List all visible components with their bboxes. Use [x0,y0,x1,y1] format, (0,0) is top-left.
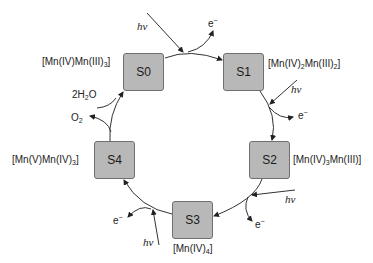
oxygen-arrow [90,116,111,132]
arrow-s0-s1 [165,53,222,60]
electron-label-s3: e− [113,215,123,226]
state-s2-label: S2 [262,153,277,167]
photon-label-s2: hν [285,193,295,205]
water-label: 2H2O [72,89,96,100]
state-s3-label: S3 [185,213,200,227]
electron-label-s0: e− [208,18,218,29]
electron-label-s2: e− [255,219,265,230]
photon-arrow-s0 [147,13,183,52]
arrow-s2-s3 [214,179,262,216]
state-s0-label: S0 [136,65,151,79]
oxidation-label-s2: [Mn(IV)3Mn(III)] [293,154,361,165]
arrow-s4-s0 [110,92,123,141]
oxidation-label-s4: [Mn(V)Mn(IV)3] [12,154,79,165]
electron-label-s1: e− [298,110,308,121]
oxidation-label-s3: [Mn(IV)4] [173,243,212,254]
photon-label-s3: hν [143,236,153,248]
state-s0: S0 [123,53,164,91]
electron-arrow-s2 [246,197,252,221]
state-s2: S2 [249,141,290,179]
oxidation-label-s1: [Mn(IV)2Mn(III)2] [268,58,340,69]
arrow-s3-s4 [124,180,172,214]
water-arrow [97,98,116,108]
state-s3: S3 [172,201,213,239]
oxidation-label-s0: [Mn(IV)Mn(III)3] [42,56,110,67]
electron-arrow-s3 [128,208,151,217]
state-s4-label: S4 [107,153,122,167]
photon-label-s0: hν [137,20,147,32]
photon-label-s1: hν [291,83,301,95]
state-s1: S1 [223,53,264,91]
arrow-s1-s2 [260,91,274,140]
oxygen-label: O2 [71,112,83,123]
photon-arrow-s3 [153,210,159,245]
electron-arrow-s0 [188,31,213,52]
state-s1-label: S1 [236,65,251,79]
state-s4: S4 [94,141,135,179]
